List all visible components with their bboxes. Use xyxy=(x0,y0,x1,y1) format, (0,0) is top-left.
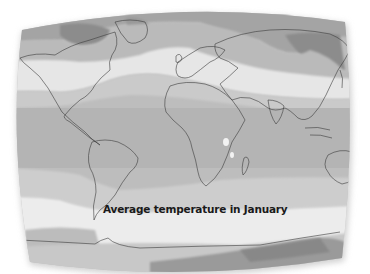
map-caption: Average temperature in January xyxy=(103,203,288,215)
world-temperature-map xyxy=(0,0,370,274)
temperature-map-figure: Average temperature in January xyxy=(0,0,370,274)
map-content xyxy=(0,0,370,274)
